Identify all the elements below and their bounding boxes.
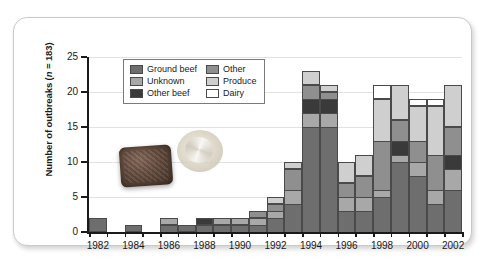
bar-segment-produce <box>391 85 409 120</box>
bar-segment-produce <box>373 99 391 141</box>
legend-item-other: Other <box>206 65 257 74</box>
bar-column-2002 <box>444 57 462 232</box>
bar-segment-unknown <box>338 197 356 211</box>
y-axis-tick-label: 10 <box>67 157 78 167</box>
y-axis-tick-label: 0 <box>72 227 78 237</box>
bar-segment-ground-beef <box>302 127 320 232</box>
x-axis-tick <box>125 232 127 237</box>
bar-segment-ground-beef <box>178 225 196 232</box>
bar-segment-other <box>320 92 338 99</box>
bar-column-1983 <box>107 57 125 232</box>
x-axis-tick-label: 1984 <box>122 240 144 251</box>
bar-segment-unknown <box>231 218 249 225</box>
produce-lettuce-photo <box>177 130 223 172</box>
x-axis-tick-label: 1992 <box>264 240 286 251</box>
x-axis-tick <box>426 232 428 237</box>
bar-column-1982 <box>89 57 107 232</box>
x-axis-tick <box>302 232 304 237</box>
bar-segment-ground-beef <box>160 225 178 232</box>
bar-column-1998 <box>373 57 391 232</box>
x-axis-tick-label: 2000 <box>406 240 428 251</box>
bar-segment-other <box>355 176 373 197</box>
x-axis-tick <box>160 232 162 237</box>
x-axis-tick <box>178 232 180 237</box>
legend-item-unknown: Unknown <box>130 77 197 86</box>
bar-segment-other <box>284 169 302 190</box>
bar-column-1996 <box>338 57 356 232</box>
bar-column-1995 <box>320 57 338 232</box>
bar-column-2001 <box>427 57 445 232</box>
bar-segment-dairy <box>373 85 391 99</box>
bar-segment-unknown <box>320 113 338 127</box>
x-axis-tick <box>196 232 198 237</box>
bar-segment-ground-beef <box>231 225 249 232</box>
legend-label: Ground beef <box>147 65 197 74</box>
bar-segment-other-beef <box>444 155 462 169</box>
legend-label: Dairy <box>223 89 244 98</box>
bar-segment-ground-beef <box>373 197 391 232</box>
legend-item-produce: Produce <box>206 77 257 86</box>
y-axis-title: Number of outbreaks (n = 183) <box>43 30 54 190</box>
bar-column-1999 <box>391 57 409 232</box>
x-axis-tick <box>409 232 411 237</box>
bar-segment-other <box>391 120 409 141</box>
legend-item-other-beef: Other beef <box>130 89 197 98</box>
x-axis-tick <box>89 232 91 237</box>
legend-label: Other beef <box>147 89 190 98</box>
bar-segment-unknown <box>444 169 462 190</box>
x-axis-tick <box>249 232 251 237</box>
x-axis-tick <box>391 232 393 237</box>
bar-segment-other-beef <box>320 99 338 113</box>
x-axis-tick-label: 1986 <box>158 240 180 251</box>
legend-swatch-icon <box>130 77 143 86</box>
x-axis-tick <box>284 232 286 237</box>
bar-segment-ground-beef <box>444 190 462 232</box>
x-axis-tick <box>213 232 215 237</box>
legend-swatch-icon <box>130 65 143 74</box>
bar-segment-produce <box>444 85 462 127</box>
bar-segment-other <box>338 183 356 197</box>
bar-column-1993 <box>284 57 302 232</box>
legend-item-dairy: Dairy <box>206 89 257 98</box>
chart-card: Number of outbreaks (n = 183) 0510152025… <box>13 17 472 246</box>
bar-segment-ground-beef <box>427 204 445 232</box>
bar-segment-unknown <box>373 190 391 197</box>
bar-segment-unknown <box>355 197 373 211</box>
bar-column-1992 <box>267 57 285 232</box>
bar-segment-unknown <box>284 190 302 204</box>
legend-swatch-icon <box>206 77 219 86</box>
bar-segment-other <box>427 155 445 190</box>
bar-segment-other <box>267 204 285 211</box>
bar-segment-ground-beef <box>89 218 107 232</box>
bar-segment-other-beef <box>391 141 409 155</box>
x-axis-tick <box>355 232 357 237</box>
x-axis-tick-label: 1990 <box>229 240 251 251</box>
legend-swatch-icon <box>206 89 219 98</box>
x-axis-tick <box>320 232 322 237</box>
bar-segment-unknown <box>391 155 409 162</box>
chart-legend: Ground beefOtherUnknownProduceOther beef… <box>123 59 265 104</box>
x-axis-tick <box>231 232 233 237</box>
bar-segment-other <box>249 211 267 218</box>
bar-segment-unknown <box>213 218 231 225</box>
legend-swatch-icon <box>130 89 143 98</box>
x-axis-tick <box>107 232 109 237</box>
bar-segment-other-beef <box>302 99 320 113</box>
ground-beef-patty-photo <box>119 144 174 188</box>
bar-segment-ground-beef <box>409 176 427 232</box>
x-axis-tick <box>142 232 144 237</box>
bar-segment-produce <box>338 162 356 183</box>
bar-column-2000 <box>409 57 427 232</box>
x-axis-tick <box>338 232 340 237</box>
bar-segment-unknown <box>160 218 178 225</box>
bar-segment-unknown <box>427 190 445 204</box>
bar-segment-ground-beef <box>249 225 267 232</box>
x-axis-tick-label: 1988 <box>193 240 215 251</box>
legend-label: Produce <box>223 77 257 86</box>
bar-segment-unknown <box>249 218 267 225</box>
bar-segment-unknown <box>267 211 285 218</box>
bar-segment-ground-beef <box>355 211 373 232</box>
y-axis-tick-label: 15 <box>67 122 78 132</box>
x-axis-tick <box>462 232 464 237</box>
bar-segment-other <box>409 141 427 162</box>
